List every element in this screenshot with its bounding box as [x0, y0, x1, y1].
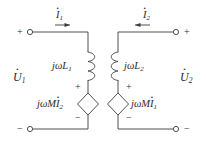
- dependent-source-prefix-left: jωM: [37, 98, 56, 109]
- circuit-schematic-svg: [0, 0, 206, 144]
- dependent-source-plus-right: +: [126, 82, 132, 92]
- current-label-right: I2: [143, 10, 150, 22]
- terminal-sign-bottom-left: −: [17, 124, 23, 134]
- current-subscript-left: 1: [60, 14, 64, 22]
- inductor-prefix-left: jωL: [52, 60, 68, 71]
- dependent-source-minus-left: −: [75, 113, 81, 123]
- dependent-source-subscript-left: 2: [60, 103, 64, 111]
- terminal-node-top-right: [173, 29, 178, 34]
- voltage-label-left: U1: [13, 71, 25, 84]
- current-arrow-head-right: [135, 23, 141, 27]
- terminal-sign-top-left: +: [17, 27, 23, 37]
- terminal-node-bottom-right: [173, 126, 178, 131]
- current-label-left: I1: [56, 10, 63, 22]
- current-arrow-head-left: [65, 23, 71, 27]
- voltage-subscript-left: 1: [22, 76, 26, 85]
- dependent-source-current-symbol-left: I: [56, 99, 60, 110]
- dependent-source-prefix-right: jωM: [131, 98, 150, 109]
- inductor-coil-right: [111, 52, 118, 81]
- dependent-source-subscript-right: 1: [154, 103, 158, 111]
- voltage-label-right: U2: [180, 71, 192, 84]
- dependent-source-plus-left: +: [75, 82, 81, 92]
- current-symbol-left: I: [56, 10, 60, 21]
- inductor-coil-left: [88, 52, 95, 81]
- dependent-source-label-right: jωMI1: [131, 99, 157, 111]
- dependent-source-minus-right: −: [126, 113, 132, 123]
- current-symbol-right: I: [143, 10, 147, 21]
- inductor-label-left: jωL1: [52, 61, 72, 73]
- current-subscript-right: 2: [147, 14, 151, 22]
- terminal-sign-bottom-right: −: [184, 124, 190, 134]
- voltage-symbol-right: U: [180, 71, 189, 83]
- terminal-node-top-left: [27, 29, 32, 34]
- inductor-label-right: jωL2: [124, 61, 144, 73]
- terminal-sign-top-right: +: [184, 27, 190, 37]
- dependent-source-label-left: jωMI2: [37, 99, 63, 111]
- terminal-node-bottom-left: [27, 126, 32, 131]
- voltage-symbol-left: U: [13, 71, 22, 83]
- dependent-source-current-symbol-right: I: [150, 99, 154, 110]
- inductor-prefix-right: jωL: [124, 60, 140, 71]
- voltage-subscript-right: 2: [189, 76, 193, 85]
- coupled-inductor-circuit-figure: + − + − I1 I2 U1 U2 jωL1 jωL2 jωMI2 jωMI…: [0, 0, 206, 144]
- inductor-subscript-left: 1: [68, 65, 72, 73]
- inductor-subscript-right: 2: [140, 65, 144, 73]
